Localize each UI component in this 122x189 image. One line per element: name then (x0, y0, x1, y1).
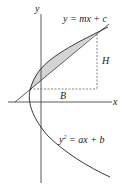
line-equation-label: y = mx + c (62, 13, 108, 24)
parabola-equation-label: y2 = ax + b (58, 134, 104, 145)
y-axis-label: y (34, 3, 40, 14)
height-label: H (101, 55, 110, 66)
base-label: B (60, 90, 66, 101)
parabola-line-diagram: y x y = mx + c H B y2 = ax + b (0, 0, 122, 189)
diagram-canvas: y x y = mx + c H B y2 = ax + b (0, 0, 122, 189)
x-axis-label: x (112, 96, 118, 107)
